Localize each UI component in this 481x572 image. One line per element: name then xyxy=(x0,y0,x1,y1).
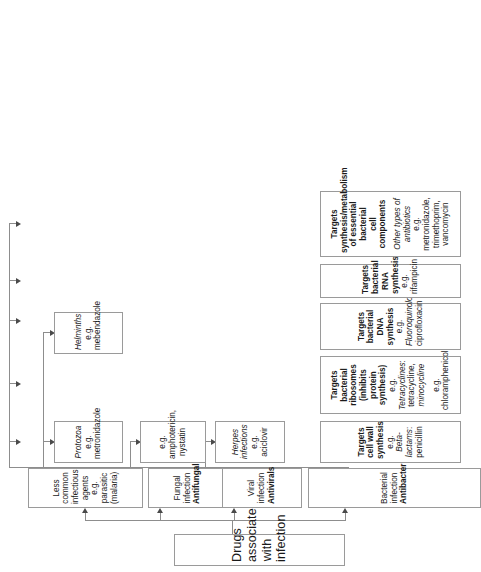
viral-line1: Viral infection xyxy=(247,472,266,504)
bacterial-bus-line xyxy=(9,223,10,468)
fungal-line2: Antifungals xyxy=(192,472,202,504)
dna-line1: Targets bacterial DNA synthesis xyxy=(357,307,396,346)
metabolism-line2: of essential bacterial xyxy=(349,195,368,253)
bacterial-line2: Antibacterials xyxy=(399,472,409,504)
branch-arrow-less-common xyxy=(82,508,88,513)
dna-line3: ciprofloxacin xyxy=(415,307,425,346)
protozoa-line1: Protozoa xyxy=(74,425,84,459)
node-herpes[interactable]: Herpes infections e.g. aciclovir xyxy=(215,421,285,463)
branch-arrow-bacterial xyxy=(342,508,348,513)
fungal-child-bus xyxy=(130,442,131,468)
arrow-ribosomes xyxy=(16,382,21,388)
protozoa-line2: e.g. metronidazole xyxy=(84,425,103,459)
less-common-line3: e.g. parasitic (malaria) xyxy=(90,472,119,504)
branch-viral[interactable]: Viral infection Antivirals xyxy=(222,468,302,508)
node-cell-wall[interactable]: Targets cell wall synthesis e.g. Beta-la… xyxy=(320,421,461,463)
trunk-spine xyxy=(85,520,345,521)
amphotericin-line2: nystatin xyxy=(178,425,188,459)
branch-line-less-common xyxy=(85,512,86,521)
less-common-line2: agents xyxy=(81,472,91,504)
ribosomes-line1: Targets bacterial ribosomes xyxy=(330,360,359,410)
arrow-cell-wall xyxy=(16,440,21,446)
bacterial-line1: Bacterial infection xyxy=(380,472,399,504)
root-node[interactable]: Drugs associated with infection xyxy=(174,534,345,566)
node-protozoa[interactable]: Protozoa e.g. metronidazole xyxy=(54,421,123,463)
node-ribosomes[interactable]: Targets bacterial ribosomes (inhibits pr… xyxy=(320,356,461,414)
fungal-line1: Fungal infection xyxy=(173,472,192,504)
branch-arrow-fungal xyxy=(157,508,163,513)
cell-wall-line1: Targets cell wall synthesis xyxy=(357,425,386,459)
branch-line-viral xyxy=(234,512,235,521)
metabolism-line3: cell components xyxy=(369,195,388,253)
branch-bacterial[interactable]: Bacterial infection Antibacterials xyxy=(308,468,481,508)
rna-line1: Targets bacterial RNA synthesis xyxy=(361,268,400,294)
ribosomes-line3: e.g. Tetracyclines: tetracycline, xyxy=(388,360,417,410)
metabolism-line4: Other types of antibiotics xyxy=(393,195,412,253)
helminths-line1: Helminths xyxy=(74,316,84,350)
branch-arrow-viral xyxy=(231,508,237,513)
branch-line-fungal xyxy=(160,512,161,521)
arrow-metabolism xyxy=(16,222,21,228)
branch-less-common[interactable]: Less common infectious agents e.g. paras… xyxy=(28,468,143,508)
lesscommon-child-bus xyxy=(43,333,44,468)
amphotericin-line1: e.g. amphotericin, xyxy=(158,425,177,459)
arrow-dna xyxy=(16,319,21,325)
less-common-line1: Less common infectious xyxy=(52,472,81,504)
node-metabolism[interactable]: Targets synthesis/metabolism of essentia… xyxy=(320,191,461,257)
rna-line2: e.g. rifampicin xyxy=(400,268,419,294)
herpes-line1: Herpes infections xyxy=(231,425,250,459)
dna-line2: e.g. Fluoroquinolones: xyxy=(395,307,414,346)
node-dna-synthesis[interactable]: Targets bacterial DNA synthesis e.g. Flu… xyxy=(320,303,461,350)
branch-fungal[interactable]: Fungal infection Antifungals xyxy=(148,468,227,508)
ribosomes-line4: minocycline xyxy=(417,360,427,410)
node-rna-synthesis[interactable]: Targets bacterial RNA synthesis e.g. rif… xyxy=(320,264,461,298)
ribosomes-line5: e.g. chloramphenicol xyxy=(432,360,451,410)
helminths-line2: e.g. mebendazole xyxy=(84,316,103,350)
node-helminths[interactable]: Helminths e.g. mebendazole xyxy=(54,312,123,354)
cell-wall-line2: e.g. Beta-lactams: penicillin xyxy=(386,425,425,459)
ribosomes-line2: (inhibits protein synthesis) xyxy=(359,360,388,410)
node-amphotericin[interactable]: e.g. amphotericin, nystatin xyxy=(140,421,206,463)
arrow-rna xyxy=(16,279,21,285)
metabolism-line6: vancomycin xyxy=(441,195,451,253)
branch-line-bacterial xyxy=(345,512,346,521)
viral-line2: Antivirals xyxy=(267,472,277,504)
herpes-line2: e.g. aciclovir xyxy=(250,425,269,459)
metabolism-line5: e.g. metronidazole, trimethoprim, xyxy=(412,195,441,253)
root-label: Drugs associated with infection xyxy=(230,538,289,562)
metabolism-line1: Targets synthesis/metabolism xyxy=(330,195,349,253)
